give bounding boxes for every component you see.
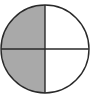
fraction-circle-diagram xyxy=(0,0,95,108)
fraction-circle xyxy=(0,0,95,108)
